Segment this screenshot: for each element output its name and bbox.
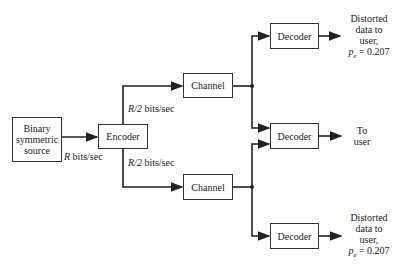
output-line: user bbox=[344, 136, 380, 147]
rate-var: R bbox=[64, 151, 70, 162]
rate-unit: bits/sec bbox=[144, 157, 174, 168]
rate-var: R/2 bbox=[128, 103, 142, 114]
bottom-branch-rate-label: R/2 bits/sec bbox=[128, 157, 174, 168]
rate-unit: bits/sec bbox=[73, 151, 103, 162]
output-line: data to bbox=[344, 223, 394, 234]
pe-value: = 0.207 bbox=[359, 46, 390, 57]
source-line-1: Binary bbox=[23, 123, 50, 134]
encoder-box: Encoder bbox=[98, 124, 148, 149]
decoder-middle-label: Decoder bbox=[278, 131, 312, 142]
decoder-middle-box: Decoder bbox=[270, 123, 319, 149]
top-branch-rate-label: R/2 bits/sec bbox=[128, 103, 174, 114]
output-line: To bbox=[344, 125, 380, 136]
output-line: Distorted bbox=[344, 212, 394, 223]
output-line: user, bbox=[344, 35, 394, 46]
output-line: data to bbox=[344, 24, 394, 35]
output-middle-text: To user bbox=[344, 125, 380, 147]
source-line-3: source bbox=[24, 145, 50, 156]
error-probability: pe = 0.207 bbox=[344, 245, 394, 261]
error-probability: pe = 0.207 bbox=[344, 46, 394, 62]
rate-var: R/2 bbox=[128, 157, 142, 168]
channel-bottom-label: Channel bbox=[191, 182, 224, 193]
channel-bottom-box: Channel bbox=[183, 174, 233, 200]
rate-unit: bits/sec bbox=[144, 103, 174, 114]
decoder-bottom-label: Decoder bbox=[278, 231, 312, 242]
output-bottom-text: Distorted data to user, pe = 0.207 bbox=[344, 212, 394, 261]
decoder-top-label: Decoder bbox=[278, 31, 312, 42]
pe-subscript: e bbox=[353, 52, 356, 60]
decoder-top-box: Decoder bbox=[270, 23, 319, 49]
pe-value: = 0.207 bbox=[359, 245, 390, 256]
output-line: user, bbox=[344, 234, 394, 245]
channel-top-label: Channel bbox=[191, 80, 224, 91]
source-line-2: symmetric bbox=[16, 134, 58, 145]
channel-top-box: Channel bbox=[183, 73, 233, 98]
encoder-label: Encoder bbox=[106, 131, 139, 142]
output-top-text: Distorted data to user, pe = 0.207 bbox=[344, 13, 394, 62]
pe-subscript: e bbox=[353, 251, 356, 259]
decoder-bottom-box: Decoder bbox=[270, 223, 319, 249]
output-line: Distorted bbox=[344, 13, 394, 24]
source-rate-label: R bits/sec bbox=[64, 151, 103, 162]
binary-symmetric-source-box: Binary symmetric source bbox=[12, 117, 62, 162]
